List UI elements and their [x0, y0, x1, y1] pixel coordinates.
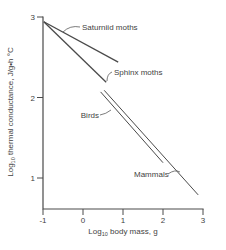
- series-line-mammals: [104, 90, 198, 195]
- y-tick-label: 1: [31, 174, 36, 183]
- x-tick-label: 3: [201, 216, 206, 225]
- sphinx-moths-label: Sphinx moths: [114, 68, 162, 77]
- y-axis-label-prefix: Log: [6, 163, 15, 176]
- x-tick-label: 0: [81, 216, 86, 225]
- y-tick-label: 2: [31, 94, 36, 103]
- y-tick-label: 3: [31, 13, 36, 22]
- y-axis-label-rest: thermal conductance, J/g•h °C: [6, 47, 15, 157]
- series-line-birds: [101, 92, 163, 163]
- x-axis-label-prefix: Log: [88, 227, 101, 236]
- chart-canvas: -10123 123 Saturniid moths Sphinx moths …: [0, 0, 226, 250]
- y-axis-ticks: 123: [31, 13, 43, 183]
- axis-spines: [43, 17, 203, 209]
- y-axis-label: Log10 thermal conductance, J/g•h °C: [6, 47, 16, 177]
- mammals-label: Mammals: [134, 170, 169, 179]
- birds-label: Birds: [81, 111, 99, 120]
- x-axis-label: Log10 body mass, g: [88, 227, 157, 237]
- x-tick-label: 2: [161, 216, 166, 225]
- x-tick-label: 1: [121, 216, 126, 225]
- saturniid-moths-label: Saturniid moths: [82, 23, 138, 32]
- sphinx-leader-line: [107, 72, 112, 81]
- birds-leader-line: [100, 110, 111, 115]
- thermal-conductance-chart: -10123 123 Saturniid moths Sphinx moths …: [0, 0, 226, 250]
- x-axis-label-rest: body mass, g: [108, 227, 158, 236]
- x-axis-ticks: -10123: [39, 209, 205, 225]
- x-tick-label: -1: [39, 216, 47, 225]
- saturniid-leader-line: [63, 27, 80, 32]
